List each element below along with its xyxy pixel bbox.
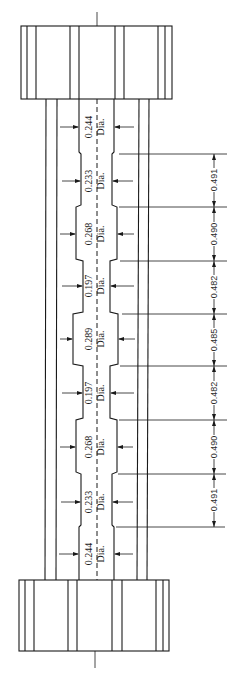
diameter-value: 0.197 <box>83 275 94 298</box>
diameter-unit: Dia. <box>95 494 106 511</box>
diameter-unit: Dia. <box>95 173 106 190</box>
specimen-drawing: 0.244 Dia. 0.233 Dia. 0.268 Dia. 0.197 D… <box>0 0 238 686</box>
length-value: 0.491 <box>209 169 219 192</box>
diameter-unit: Dia. <box>95 439 106 456</box>
top-grip-flange <box>21 26 172 99</box>
diameter-value: 0.233 <box>83 170 94 193</box>
diameter-unit: Dia. <box>95 119 106 136</box>
length-value: 0.482 <box>209 276 219 299</box>
diameter-value: 0.268 <box>83 223 94 246</box>
diameter-unit: Dia. <box>95 385 106 402</box>
length-value: 0.490 <box>209 436 219 459</box>
diameter-value: 0.268 <box>83 436 94 459</box>
length-value: 0.482 <box>209 382 219 405</box>
diameter-unit: Dia. <box>95 331 106 348</box>
diameter-value: 0.244 <box>83 543 94 566</box>
diameter-unit: Dia. <box>95 278 106 295</box>
diameter-value: 0.289 <box>83 328 94 351</box>
length-value: 0.491 <box>209 489 219 512</box>
diameter-value: 0.244 <box>83 116 94 139</box>
bottom-grip-flange <box>19 580 169 651</box>
diameter-unit: Dia. <box>95 226 106 243</box>
diameter-unit: Dia. <box>95 546 106 563</box>
diameter-value: 0.233 <box>83 491 94 514</box>
length-value: 0.490 <box>209 223 219 246</box>
diameter-labels: 0.244 Dia. 0.233 Dia. 0.268 Dia. 0.197 D… <box>83 116 106 566</box>
diameter-value: 0.197 <box>83 382 94 405</box>
length-value: 0.485 <box>209 329 219 352</box>
